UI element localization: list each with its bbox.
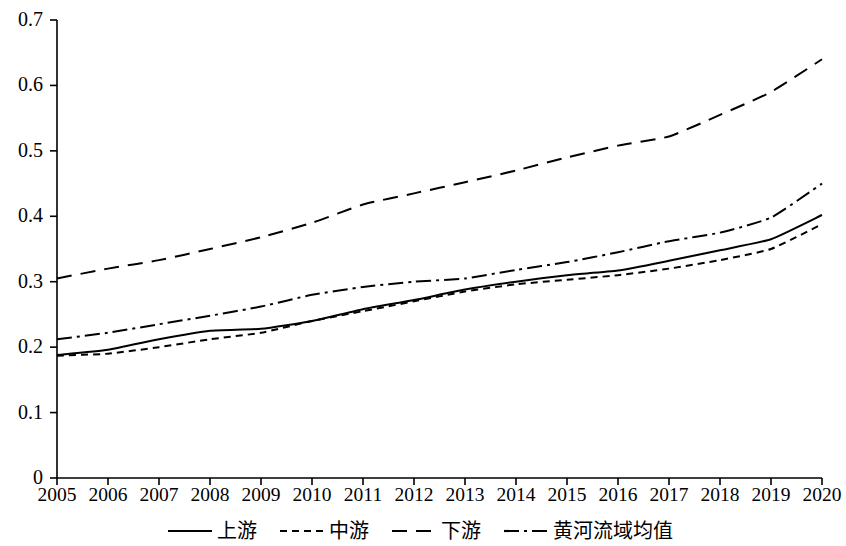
legend-item-label: 下游 [441,520,481,542]
legend-item-label: 上游 [217,520,257,542]
x-axis-tick-label: 2013 [437,485,493,505]
legend-item: 上游 [167,520,257,542]
y-axis-tick-label: 0 [0,467,43,487]
legend-item-label: 黄河流域均值 [553,520,673,542]
x-axis-tick-label: 2009 [233,485,289,505]
legend-item: 下游 [391,520,481,542]
x-axis-tick-label: 2018 [692,485,748,505]
legend-line-swatch [167,524,213,538]
x-axis-tick-label: 2010 [284,485,340,505]
legend-item: 中游 [279,520,369,542]
x-axis-tick-label: 2007 [131,485,187,505]
x-axis-tick-label: 2005 [29,485,85,505]
y-axis-tick-label: 0.2 [0,336,43,356]
y-axis-tick-label: 0.7 [0,9,43,29]
legend-item: 黄河流域均值 [503,520,673,542]
series-line-3 [57,184,822,340]
legend-item-label: 中游 [329,520,369,542]
y-axis-tick-label: 0.6 [0,74,43,94]
axis-spine [57,20,822,478]
series-line-2 [57,59,822,278]
x-axis-tick-label: 2006 [80,485,136,505]
series-line-1 [57,224,822,356]
x-axis-tick-label: 2019 [743,485,799,505]
chart-legend: 上游中游下游黄河流域均值 [0,516,840,546]
legend-line-swatch [391,524,437,538]
y-axis-tick-label: 0.5 [0,140,43,160]
x-axis-tick-label: 2020 [794,485,846,505]
x-axis-tick-label: 2017 [641,485,697,505]
x-axis-tick-label: 2015 [539,485,595,505]
series-lines [57,59,822,355]
y-axis-tick-label: 0.1 [0,402,43,422]
y-axis-tick-label: 0.3 [0,271,43,291]
x-axis-tick-label: 2008 [182,485,238,505]
x-axis-tick-label: 2014 [488,485,544,505]
x-axis-tick-label: 2011 [335,485,391,505]
legend-line-swatch [503,524,549,538]
x-axis-tick-label: 2016 [590,485,646,505]
legend-line-swatch [279,524,325,538]
x-axis-tick-label: 2012 [386,485,442,505]
y-axis-tick-label: 0.4 [0,205,43,225]
